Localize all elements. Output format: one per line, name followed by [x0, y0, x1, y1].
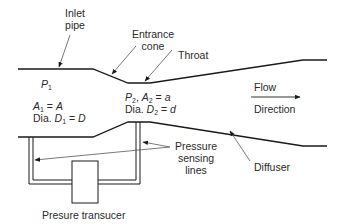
pressure-line-leader-left: [35, 147, 170, 160]
p1-label: P1: [41, 78, 52, 94]
inlet-pipe-leader: [59, 35, 70, 67]
diffuser-label: Diffuser: [254, 161, 290, 173]
direction-label: Direction: [254, 103, 295, 115]
flow-label: Flow: [254, 81, 276, 93]
venturi-upper-wall: [18, 60, 327, 83]
d1-label: Dia. D1 = D: [33, 112, 86, 128]
pressure-line-leader-right: [143, 142, 170, 147]
inlet-pipe-label: Inlet pipe: [58, 7, 92, 31]
pressure-transducer-label: Presure transucer: [42, 209, 125, 221]
throat-label: Throat: [178, 49, 208, 61]
d2-label: Dia. D2 = d: [125, 103, 176, 119]
entrance-cone-label: Entrance cone: [128, 28, 178, 52]
pressure-sensing-lines-label: Pressure sensing lines: [171, 140, 221, 176]
pressure-transducer-box: [72, 161, 98, 203]
throat-leader: [145, 50, 172, 81]
